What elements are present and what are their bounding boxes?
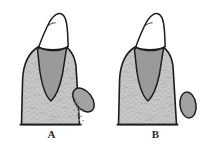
panel-a: A [0, 0, 103, 150]
adjacent-oval-body-b [178, 91, 197, 119]
tooth-crown-b [136, 14, 165, 50]
panel-b: B [104, 0, 207, 150]
panel-label-b: B [104, 128, 207, 141]
figure-root: A [0, 0, 207, 150]
tooth-crown-a [39, 14, 68, 50]
panel-label-a: A [0, 128, 103, 141]
